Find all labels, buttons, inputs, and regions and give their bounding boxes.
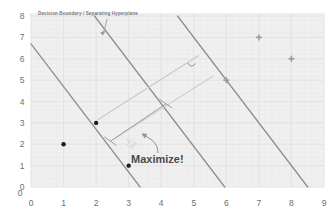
y-tick-label: 5 bbox=[20, 75, 25, 85]
y-tick-label: 2 bbox=[20, 139, 25, 149]
x-tick-label: 2 bbox=[94, 198, 99, 208]
data-point-dot bbox=[61, 142, 65, 146]
x-tick-label: 4 bbox=[159, 198, 164, 208]
x-tick-label: 0 bbox=[29, 198, 34, 208]
x-tick-label: 6 bbox=[224, 198, 229, 208]
y-tick-label: 8 bbox=[20, 11, 25, 21]
maximize-annotation-label: Maximize! bbox=[131, 153, 184, 165]
svm-margin-figure: 01234567890123456780Decision Boundary / … bbox=[0, 0, 334, 214]
origin-label: 0 bbox=[18, 188, 23, 198]
y-axis-tick-labels: 012345678 bbox=[20, 11, 25, 192]
x-tick-label: 7 bbox=[257, 198, 262, 208]
y-tick-label: 6 bbox=[20, 54, 25, 64]
y-tick-label: 4 bbox=[20, 97, 25, 107]
y-tick-label: 7 bbox=[20, 32, 25, 42]
boundary-annotation-label: Decision Boundary / Separating Hyperplan… bbox=[38, 11, 138, 16]
y-tick-label: 3 bbox=[20, 118, 25, 128]
x-tick-label: 1 bbox=[61, 198, 66, 208]
x-tick-label: 3 bbox=[126, 198, 131, 208]
x-tick-label: 9 bbox=[322, 198, 327, 208]
x-tick-label: 8 bbox=[289, 198, 294, 208]
data-point-dot bbox=[94, 121, 98, 125]
y-tick-label: 1 bbox=[20, 161, 25, 171]
figure-canvas: 01234567890123456780Decision Boundary / … bbox=[0, 0, 334, 214]
x-axis-tick-labels: 0123456789 bbox=[29, 198, 327, 208]
x-tick-label: 5 bbox=[191, 198, 196, 208]
